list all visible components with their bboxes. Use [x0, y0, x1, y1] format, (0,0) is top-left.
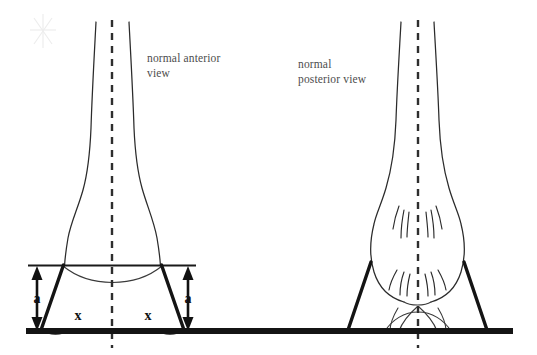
corner-smudge-mark: [30, 14, 56, 48]
heel-strut-left: [41, 265, 64, 330]
heel-strut-posterior-right: [464, 262, 487, 330]
posterior-panel: normal posterior view: [298, 20, 487, 348]
angle-label-right: x: [145, 308, 152, 323]
anterior-panel: a a x x normal anterior view: [28, 20, 220, 348]
posterior-view-label-line1: normal: [298, 58, 331, 70]
calf-outline-left: [371, 22, 404, 302]
plantar-lobe-right: [438, 308, 446, 331]
plantar-lobe-center-right: [419, 307, 437, 331]
height-label-right: a: [185, 291, 192, 306]
calf-outline-right: [431, 22, 464, 302]
plantar-lobe-left: [390, 308, 398, 331]
heel-strut-right: [162, 265, 185, 330]
anterior-view-label-line2: view: [147, 67, 170, 79]
heel-pad-contour: [404, 302, 431, 305]
posterior-view-label-line2: posterior view: [298, 73, 367, 86]
height-label-left: a: [34, 291, 41, 306]
plantar-lobe-center-left: [399, 307, 417, 331]
figure-root: a a x x normal anterior view: [0, 0, 537, 355]
angle-label-left: x: [75, 308, 82, 323]
anatomy-diagram: a a x x normal anterior view: [0, 0, 537, 355]
leg-outline-left-lateral: [65, 22, 97, 266]
anterior-view-label-line1: normal anterior: [147, 52, 220, 64]
heel-strut-posterior-left: [348, 262, 371, 330]
